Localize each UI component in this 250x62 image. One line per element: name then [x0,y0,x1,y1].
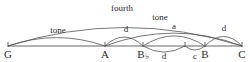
arc-label-tone-right: tone [152,13,168,22]
interval-diagram: GAB♭BCfourthtonetonedaddc [0,0,250,62]
arc-label-d-B-C: d [222,24,227,33]
note-label-A: A [101,49,109,60]
arc-label-d-below: d [162,52,167,61]
note-label-Bb: B♭ [137,49,148,61]
arc-tone-right [105,33,242,46]
arc-label-fourth: fourth [111,4,133,13]
arc-label-a-Bb-B: a [172,22,176,31]
arc-label-tone-left: tone [50,26,66,35]
note-label-C: C [238,49,245,60]
arc-d-A-Bb [105,37,143,46]
note-label-G: G [4,49,12,60]
arc-label-d-A-Bb: d [124,25,129,34]
arc-a-Bb-B [143,36,205,46]
note-label-B: B [201,49,208,60]
arc-tone-left [8,38,105,46]
flat-accidental-icon: ♭ [145,51,149,61]
arc-label-c-below: c [193,52,197,61]
